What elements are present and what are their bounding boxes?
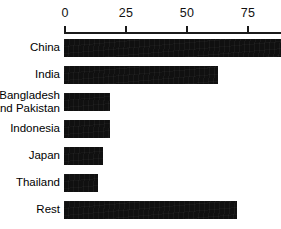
bar-row-indonesia: Indonesia: [0, 119, 281, 139]
x-axis-tick-25: [125, 26, 127, 33]
bar-label-china: China: [0, 41, 60, 54]
bar-label-thailand: Thailand: [0, 176, 60, 189]
bar-india: [64, 66, 218, 84]
bar-rows: China India Bangladesh and Pakistan Indo…: [0, 36, 281, 229]
bar-row-india: India: [0, 65, 281, 85]
bar-label-india: India: [0, 68, 60, 81]
bar-row-china: China: [0, 38, 281, 58]
bar-row-bangladesh-and-pakistan: Bangladesh and Pakistan: [0, 92, 281, 112]
x-axis-tick-label-0: 0: [61, 6, 68, 20]
x-axis-tick-label-25: 25: [119, 6, 133, 20]
bar-label-indonesia: Indonesia: [0, 122, 60, 135]
bar-chart: 0 25 50 75 China India Bangladesh and Pa…: [0, 0, 281, 229]
x-axis-tick-label-50: 50: [180, 6, 194, 20]
x-axis-tick-75: [247, 26, 249, 33]
bar-row-japan: Japan: [0, 146, 281, 166]
x-axis: 0 25 50 75: [0, 0, 281, 36]
bar-thailand: [64, 174, 98, 192]
bar-label-rest: Rest: [0, 203, 60, 216]
bar-japan: [64, 147, 103, 165]
bar-rest: [64, 201, 237, 219]
bar-row-rest: Rest: [0, 200, 281, 220]
bar-label-japan: Japan: [0, 149, 60, 162]
bar-row-thailand: Thailand: [0, 173, 281, 193]
bar-bangladesh-and-pakistan: [64, 93, 110, 111]
x-axis-tick-label-75: 75: [241, 6, 255, 20]
x-axis-tick-0: [64, 26, 66, 33]
bar-indonesia: [64, 120, 110, 138]
bar-china: [64, 39, 281, 57]
bar-label-bangladesh-and-pakistan: Bangladesh and Pakistan: [0, 89, 60, 114]
x-axis-tick-50: [186, 26, 188, 33]
